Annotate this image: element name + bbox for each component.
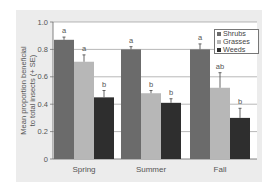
y-tick-label: 1.0 <box>38 18 48 27</box>
bar-grasses-spring <box>74 62 94 159</box>
y-axis-title: Mean proportion beneficial <box>19 46 28 135</box>
x-category-label: Spring <box>72 165 95 174</box>
legend-item-weeds: Weeds <box>217 46 258 54</box>
significance-letter: ab <box>216 62 224 71</box>
legend-swatch-grasses <box>217 40 221 44</box>
bar-shrubs-spring <box>54 40 74 159</box>
y-tick-label: 0 <box>44 155 48 164</box>
x-category-label: Fall <box>214 165 227 174</box>
y-tick-label: 0.4 <box>38 100 48 109</box>
y-tick-label: 0.6 <box>38 72 48 81</box>
x-category-label: Summer <box>136 165 167 174</box>
bar-grasses-summer <box>141 93 161 159</box>
significance-letter: b <box>149 80 153 89</box>
significance-letter: b <box>169 88 173 97</box>
y-axis-title: to total insects (+ SE) <box>28 54 37 126</box>
y-tick-label: 0.8 <box>38 45 48 54</box>
chart-legend: Shrubs Grasses Weeds <box>214 29 259 54</box>
y-tick-label: 0.2 <box>38 127 48 136</box>
bar-weeds-summer <box>161 103 181 159</box>
bar-grasses-fall <box>210 88 230 159</box>
legend-swatch-shrubs <box>217 32 221 36</box>
bar-shrubs-summer <box>121 49 141 159</box>
significance-letter: b <box>238 97 242 106</box>
bar-weeds-spring <box>94 97 114 159</box>
legend-swatch-weeds <box>217 48 221 52</box>
significance-letter: b <box>102 80 106 89</box>
legend-label: Weeds <box>223 46 245 54</box>
bar-shrubs-fall <box>190 49 210 159</box>
bar-weeds-fall <box>230 118 250 159</box>
